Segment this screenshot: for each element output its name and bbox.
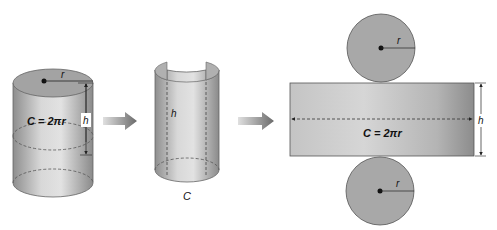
circumference-label: C xyxy=(183,190,191,202)
closed-cylinder: r h C = 2πr xyxy=(13,69,93,197)
transition-arrow-1 xyxy=(103,112,137,130)
height-label: h xyxy=(478,115,484,126)
width-label: C = 2πr xyxy=(363,127,402,139)
cylinder-net-diagram: r h C = 2πr h C r xyxy=(0,0,497,230)
circumference-label: C = 2πr xyxy=(27,115,66,127)
transition-arrow-2 xyxy=(238,112,274,130)
lateral-rectangle xyxy=(290,83,474,156)
height-label: h xyxy=(83,115,89,126)
cylinder-net: r C = 2πr h r xyxy=(290,14,486,225)
cut-cylinder: h C xyxy=(155,62,219,202)
height-label: h xyxy=(171,108,177,119)
